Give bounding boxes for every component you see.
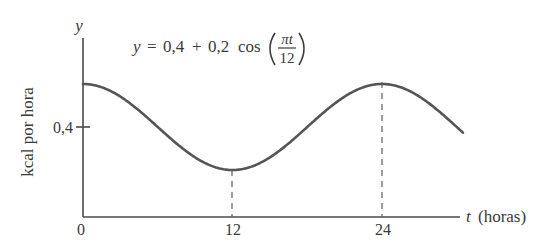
eq-denominator: 12: [280, 50, 295, 66]
right-paren: [299, 33, 304, 65]
eq-plus: +: [192, 37, 202, 56]
x-tick-label-12: 12: [225, 221, 241, 238]
eq-constant: 0,4: [163, 37, 185, 56]
cosine-curve: [83, 84, 463, 170]
equation: y = 0,4 + 0,2 cos πt 12: [131, 31, 304, 66]
x-tick-label-0: 0: [77, 221, 85, 238]
chart: y kcal por hora 0,4 0 12 24 t (horas) y …: [0, 0, 553, 242]
eq-func: cos: [238, 37, 261, 56]
eq-numerator: πt: [281, 31, 294, 47]
x-axis-var: t: [466, 207, 472, 226]
eq-amplitude: 0,2: [208, 37, 229, 56]
y-axis-var: y: [73, 16, 83, 35]
eq-lhs: y: [131, 37, 141, 56]
left-paren: [270, 33, 275, 65]
x-tick-label-24: 24: [375, 221, 391, 238]
y-axis-label: kcal por hora: [18, 87, 37, 177]
x-axis-unit: (horas): [478, 207, 526, 226]
y-tick-label: 0,4: [53, 119, 73, 136]
eq-sign: =: [147, 37, 157, 56]
